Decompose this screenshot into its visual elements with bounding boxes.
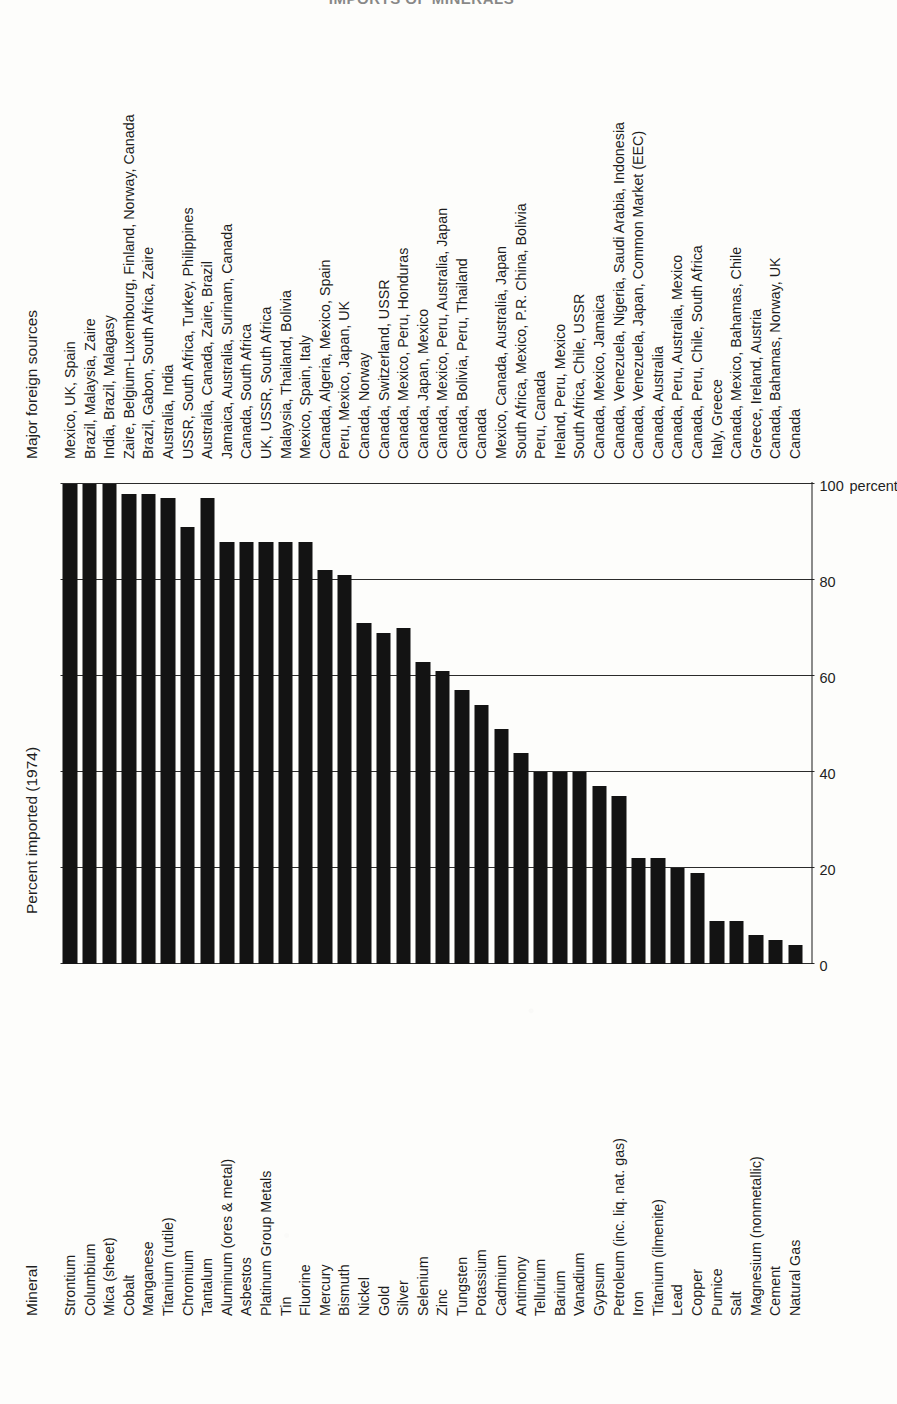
foreign-sources-label: South Africa, Mexico, P.R. China, Bolivi…: [511, 29, 531, 459]
foreign-sources-label: Peru, Canada: [530, 29, 550, 459]
foreign-sources-label: Canada, South Africa: [236, 29, 256, 459]
foreign-sources-label: Canada, Mexico, Jamaica: [589, 29, 609, 459]
bar: [670, 868, 684, 964]
bar: [513, 753, 527, 964]
mineral-label: Tungsten: [452, 986, 472, 1316]
foreign-sources-label: Mexico, Spain, Italy: [295, 29, 315, 459]
mineral-label: Nickel: [354, 986, 374, 1316]
mineral-label: Chromium: [178, 986, 198, 1316]
mineral-label: Mica (sheet): [99, 986, 119, 1316]
x-axis-line: [811, 482, 813, 964]
x-axis-tick-label: 60: [819, 670, 835, 686]
foreign-sources-label: Canada, Norway: [354, 29, 374, 459]
bar: [180, 527, 194, 964]
mineral-label: Copper: [687, 986, 707, 1316]
foreign-sources-label: Canada, Mexico, Peru, Honduras: [393, 29, 413, 459]
mineral-label: Cement: [765, 986, 785, 1316]
bar: [768, 940, 782, 964]
mineral-label: Silver: [393, 986, 413, 1316]
bar: [298, 542, 312, 964]
foreign-sources-label: Ireland, Peru, Mexico: [550, 29, 570, 459]
mineral-label: Natural Gas: [785, 986, 805, 1316]
x-axis-tick-label: 100: [819, 478, 843, 494]
bar: [239, 542, 253, 964]
bar: [729, 921, 743, 964]
mineral-label: Tantalum: [197, 986, 217, 1316]
bar: [317, 570, 331, 964]
bar: [82, 484, 96, 964]
mineral-label: Salt: [726, 986, 746, 1316]
mineral-label: Asbestos: [236, 986, 256, 1316]
bar-chart-plot-area: 020406080100percent: [60, 484, 805, 964]
mineral-label: Antimony: [511, 986, 531, 1316]
mineral-label: Magnesium (nonmetallic): [746, 986, 766, 1316]
bar: [376, 633, 390, 964]
mineral-label: Lead: [667, 986, 687, 1316]
foreign-sources-label: Canada, Venezuela, Nigeria, Saudi Arabia…: [609, 29, 629, 459]
mineral-label: Gypsum: [589, 986, 609, 1316]
bar: [748, 935, 762, 964]
foreign-sources-label: Canada, Mexico, Peru, Australia, Japan: [432, 29, 452, 459]
bar: [200, 498, 214, 964]
bar: [219, 542, 233, 964]
mineral-label: Pumice: [707, 986, 727, 1316]
mineral-label: Columbium: [80, 986, 100, 1316]
bar: [258, 542, 272, 964]
gridline: [60, 483, 814, 484]
foreign-sources-label: Zaire, Belgium-Luxembourg, Finland, Norw…: [119, 29, 139, 459]
foreign-sources-label: Mexico, UK, Spain: [60, 29, 80, 459]
bar: [121, 494, 135, 964]
mineral-label: Zinc: [432, 986, 452, 1316]
foreign-sources-label: Australia, Canada, Zaire, Brazil: [197, 29, 217, 459]
x-axis-tick-label: 0: [819, 958, 827, 974]
foreign-sources-label: Canada, Switzerland, USSR: [374, 29, 394, 459]
mineral-label: Vanadium: [569, 986, 589, 1316]
bar: [592, 786, 606, 964]
foreign-sources-label: USSR, South Africa, Turkey, Philippines: [178, 29, 198, 459]
foreign-sources-label: Canada, Bolivia, Peru, Thailand: [452, 29, 472, 459]
mineral-label: Barium: [550, 986, 570, 1316]
bar: [788, 945, 802, 964]
mineral-name-column: StrontiumColumbiumMica (sheet)CobaltMang…: [60, 986, 805, 1316]
bar: [533, 772, 547, 964]
mineral-label: Titanium (ilmenite): [648, 986, 668, 1316]
bar: [141, 494, 155, 964]
foreign-sources-label: Canada, Bahamas, Norway, UK: [765, 29, 785, 459]
bar: [337, 575, 351, 964]
foreign-sources-label: Canada, Mexico, Bahamas, Chile: [726, 29, 746, 459]
bar: [415, 662, 429, 964]
x-axis-tick-label: 20: [819, 862, 835, 878]
mineral-label: Potassium: [471, 986, 491, 1316]
bar: [494, 729, 508, 964]
mineral-label: Strontium: [60, 986, 80, 1316]
bar: [396, 628, 410, 964]
bar: [474, 705, 488, 964]
mineral-label: Manganese: [138, 986, 158, 1316]
foreign-sources-label: India, Brazil, Malagasy: [99, 29, 119, 459]
mineral-label: Tellurium: [530, 986, 550, 1316]
foreign-sources-label: Peru, Mexico, Japan, UK: [334, 29, 354, 459]
foreign-sources-label: Canada: [785, 29, 805, 459]
bar: [160, 498, 174, 964]
bar: [278, 542, 292, 964]
foreign-sources-label: Malaysia, Thailand, Bolivia: [276, 29, 296, 459]
bar: [435, 671, 449, 964]
mineral-label: Tin: [276, 986, 296, 1316]
mineral-label: Cobalt: [119, 986, 139, 1316]
foreign-sources-label: Mexico, Canada, Australia, Japan: [491, 29, 511, 459]
foreign-sources-label: Australia, India: [158, 29, 178, 459]
foreign-sources-label: Canada, Peru, Chile, South Africa: [687, 29, 707, 459]
foreign-sources-label: Canada, Peru, Australia, Mexico: [667, 29, 687, 459]
bar: [611, 796, 625, 964]
mineral-label: Titanium (rutile): [158, 986, 178, 1316]
column-header-percent: Percent imported (1974): [22, 747, 40, 914]
foreign-sources-label: Canada, Japan, Mexico: [413, 29, 433, 459]
x-axis-unit-label: percent: [849, 478, 897, 494]
foreign-sources-label: Greece, Ireland, Austria: [746, 29, 766, 459]
bar: [454, 690, 468, 964]
mineral-label: Gold: [374, 986, 394, 1316]
mineral-label: Platinum Group Metals: [256, 986, 276, 1316]
foreign-sources-column: Mexico, UK, SpainBrazil, Malaysia, Zaire…: [60, 29, 805, 459]
